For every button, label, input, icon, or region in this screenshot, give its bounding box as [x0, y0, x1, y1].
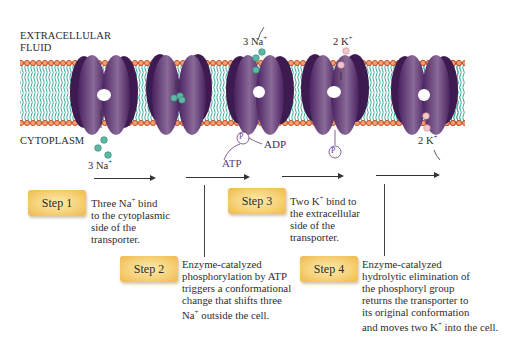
extracellular-fluid-label: EXTRACELLULAR FLUID — [20, 30, 111, 54]
adp-label: ADP — [264, 138, 286, 150]
na-in-label: 3 Na+ — [88, 158, 112, 171]
k-top-label: 2 K+ — [333, 34, 352, 47]
flow-arrow-1 — [94, 178, 154, 179]
step-2-description: Enzyme-catalyzed phosphorylation by ATP … — [182, 258, 291, 321]
connector-line-step2 — [204, 185, 205, 257]
step-3-description: Two K+ bind to the extracellular side of… — [290, 192, 360, 243]
step-4-description: Enzyme-catalyzed hydrolytic elimination … — [362, 258, 498, 333]
flow-arrow-4 — [376, 175, 438, 176]
phosphate-icon: P — [331, 146, 335, 155]
na-out-label: 3 Na+ — [243, 34, 267, 47]
step-4-badge: Step 4 — [300, 256, 358, 282]
k-bottom-label: 2 K+ — [418, 133, 437, 146]
flow-arrow-2 — [186, 177, 248, 178]
phosphate-icon: P — [239, 132, 243, 141]
step-1-badge: Step 1 — [28, 190, 86, 216]
atp-label: ATP — [222, 157, 242, 169]
flow-arrow-3 — [282, 176, 342, 177]
step-3-badge: Step 3 — [228, 188, 286, 214]
cytoplasm-label: CYTOPLASM — [20, 135, 84, 147]
step-1-description: Three Na+ bind to the cytoplasmic side o… — [91, 194, 170, 245]
step-2-badge: Step 2 — [120, 256, 178, 282]
connector-line-step4 — [384, 184, 385, 256]
